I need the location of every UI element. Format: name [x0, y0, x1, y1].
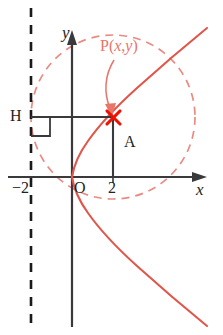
parabola-lower-branch — [72, 177, 207, 326]
pointer-arrow-curve — [106, 60, 114, 108]
point-h-label: H — [10, 108, 22, 124]
y-axis-label: y — [62, 24, 70, 41]
x-axis-label: x — [196, 181, 204, 198]
point-p-prefix: P( — [100, 37, 114, 54]
point-p-suffix: ) — [132, 37, 137, 54]
origin-label: O — [74, 180, 86, 196]
parabola-figure: y x O −2 2 H A P(x,y) — [0, 0, 223, 335]
point-a-label: A — [124, 134, 136, 150]
parabola-upper-branch — [72, 28, 207, 177]
point-p-label: P(x,y) — [100, 38, 138, 54]
x-tick-label-neg2: −2 — [12, 180, 29, 196]
x-tick-label-2: 2 — [108, 180, 116, 196]
right-angle-marker — [31, 117, 50, 136]
